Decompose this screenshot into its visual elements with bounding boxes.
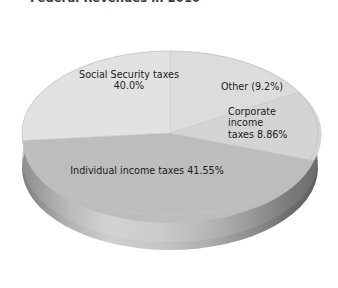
pie-label-individual-income-taxes: Individual income taxes 41.55% bbox=[57, 165, 237, 176]
pie-label-social-security-taxes: Social Security taxes 40.0% bbox=[68, 69, 190, 92]
pie-label-corporate-line1: Corporate bbox=[228, 106, 276, 117]
pie-label-corporate-line2: income bbox=[228, 117, 263, 128]
pie-label-social-security-name: Social Security taxes bbox=[79, 69, 179, 80]
pie-chart-graphic bbox=[0, 0, 338, 288]
pie-label-corporate-income-taxes: Corporate income taxes 8.86% bbox=[228, 106, 320, 140]
pie-chart: Federal Revenues in 2010 bbox=[0, 0, 338, 288]
pie-label-social-security-value: 40.0% bbox=[114, 80, 144, 91]
pie-slice-social-security-taxes bbox=[22, 51, 170, 141]
pie-label-corporate-line3: taxes 8.86% bbox=[228, 129, 287, 140]
pie-label-other: Other (9.2%) bbox=[204, 81, 300, 92]
